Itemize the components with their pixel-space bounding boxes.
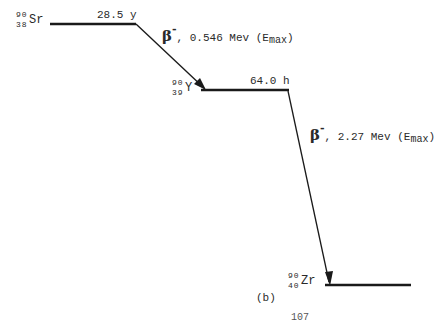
atomic-number: 38: [16, 21, 28, 29]
mass-number: 90: [172, 79, 184, 87]
mass-number: 90: [16, 11, 28, 19]
atomic-number: 40: [288, 282, 300, 290]
element-symbol: Sr: [29, 14, 43, 26]
atomic-number: 39: [172, 89, 184, 97]
transition-2-label: β-, 2.27 Mev (Emax): [310, 125, 435, 143]
figure-caption: (b): [256, 292, 276, 304]
beta-minus-symbol: β-: [162, 27, 177, 45]
transition-2-energy: , 2.27 Mev (Emax): [325, 131, 435, 143]
element-symbol: Y: [185, 82, 192, 94]
element-symbol: Zr: [301, 275, 315, 287]
page-number: 107: [291, 312, 309, 323]
beta-minus-symbol: β-: [310, 126, 325, 144]
transition-1-energy: , 0.546 Mev (Emax): [177, 32, 294, 44]
y-half-life: 64.0 h: [250, 76, 290, 87]
sr-half-life: 28.5 y: [97, 10, 137, 21]
transition-1-label: β-, 0.546 Mev (Emax): [162, 26, 294, 44]
mass-number: 90: [288, 272, 300, 280]
y-to-zr-decay-arrow: [288, 91, 329, 282]
